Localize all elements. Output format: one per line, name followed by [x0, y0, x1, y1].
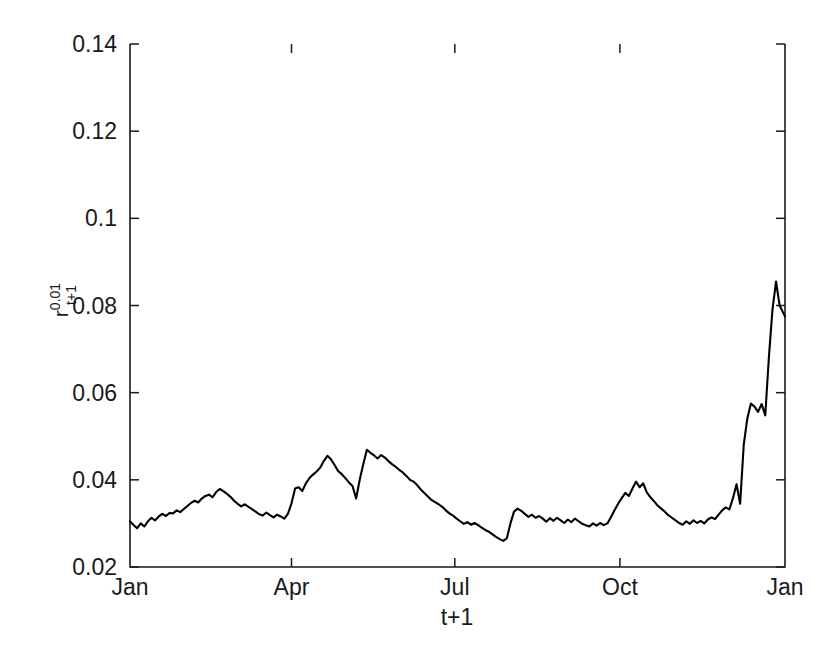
y-tick-label: 0.1 — [85, 205, 117, 231]
x-tick-label: Jan — [111, 574, 148, 600]
figure-container: 0.020.040.060.080.10.120.14 JanAprJulOct… — [0, 0, 839, 650]
x-axis-tick-labels: JanAprJulOctJan — [111, 574, 803, 600]
series-line-r — [130, 282, 785, 541]
plot-axes — [130, 44, 785, 567]
line-chart: 0.020.040.060.080.10.120.14 JanAprJulOct… — [0, 0, 839, 650]
y-axis-ticks — [130, 44, 785, 567]
y-tick-label: 0.12 — [72, 118, 117, 144]
x-axis-ticks — [292, 44, 620, 567]
x-tick-label: Jul — [440, 574, 469, 600]
x-axis-label: t+1 — [441, 604, 474, 630]
y-tick-label: 0.04 — [72, 467, 117, 493]
y-tick-label: 0.06 — [72, 380, 117, 406]
y-axis-label-superscript: 0.01 — [47, 283, 63, 310]
y-axis-label-base: r — [49, 310, 72, 317]
x-tick-label: Apr — [274, 574, 310, 600]
y-tick-label: 0.14 — [72, 31, 117, 57]
x-tick-label: Jan — [766, 574, 803, 600]
y-axis-label-subscript: t+1 — [63, 285, 79, 305]
x-tick-label: Oct — [602, 574, 638, 600]
y-tick-label: 0.02 — [72, 554, 117, 580]
axis-frame — [130, 44, 785, 567]
